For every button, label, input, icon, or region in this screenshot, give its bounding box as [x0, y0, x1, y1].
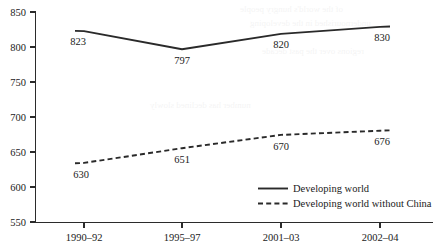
data-label: 830 [374, 32, 390, 43]
x-tick-label: 1995–97 [164, 232, 201, 243]
y-axis-ticks [30, 12, 36, 222]
data-label: 630 [73, 169, 89, 180]
data-label: 820 [273, 39, 289, 50]
chart-legend: Developing world Developing world withou… [258, 183, 432, 209]
x-tick-label: 2001–03 [263, 232, 300, 243]
y-tick-label: 700 [10, 112, 26, 123]
y-tick-label: 600 [10, 182, 26, 193]
x-axis-ticks [84, 223, 380, 229]
y-tick-label: 650 [10, 147, 26, 158]
line-chart: 850 800 750 700 650 600 550 1990–92 1995… [0, 0, 435, 249]
x-tick-label: 1990–92 [66, 232, 103, 243]
x-axis-tick-labels: 1990–92 1995–97 2001–03 2002–04 [66, 232, 400, 243]
chart-canvas: 850 800 750 700 650 600 550 1990–92 1995… [0, 0, 435, 249]
legend-label-developing-world-without-china: Developing world without China [293, 198, 432, 209]
series-line-developing-world [75, 27, 390, 50]
data-label: 823 [70, 36, 86, 47]
data-label: 797 [174, 55, 190, 66]
y-tick-label: 750 [10, 77, 26, 88]
x-tick-label: 2002–04 [362, 232, 400, 243]
data-label: 651 [174, 154, 190, 165]
y-axis-tick-labels: 850 800 750 700 650 600 550 [10, 7, 26, 228]
legend-label-developing-world: Developing world [293, 183, 370, 194]
data-label: 676 [374, 136, 390, 147]
y-tick-label: 550 [10, 217, 26, 228]
data-label: 670 [273, 141, 289, 152]
series-line-developing-world-without-china [75, 130, 390, 163]
y-tick-label: 850 [10, 7, 26, 18]
y-tick-label: 800 [10, 42, 26, 53]
